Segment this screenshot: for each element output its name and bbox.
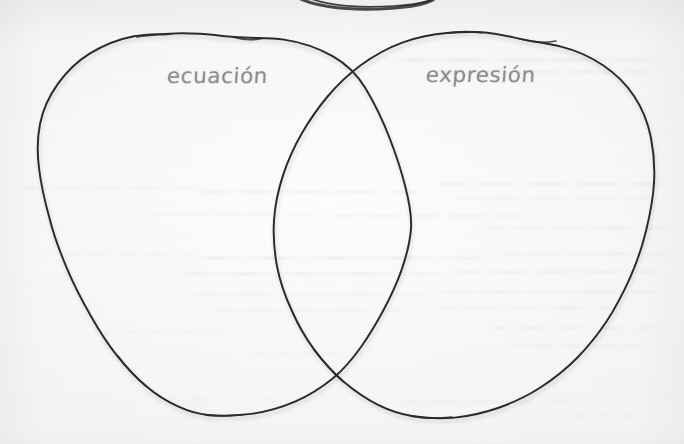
venn-diagram-drawing [0,0,684,444]
paper-page: ecuación expresión [0,0,684,444]
left-set-circle [38,33,412,416]
right-set-circle [274,32,655,419]
top-edge-partial-arc [286,0,445,9]
set-label-ecuacion: ecuación [166,64,268,88]
set-label-expresion: expresión [425,63,537,87]
